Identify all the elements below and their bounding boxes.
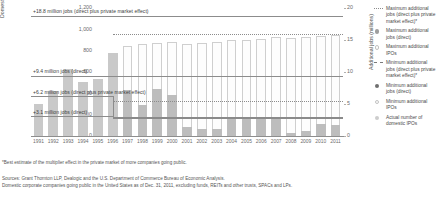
chart-figure: Domestic companies going public in the U… bbox=[0, 0, 437, 197]
y-tick-label-right: 10 bbox=[347, 69, 369, 74]
x-tick-label: 2009 bbox=[298, 139, 314, 144]
bar-actual-ipos bbox=[212, 129, 222, 136]
x-tick-label: 2001 bbox=[179, 139, 195, 144]
legend-marker-icon bbox=[374, 60, 384, 66]
bar-max-additional-ipos bbox=[212, 42, 222, 136]
x-tick-label: 2011 bbox=[328, 139, 344, 144]
bar-actual-ipos bbox=[152, 89, 162, 136]
legend-item[interactable]: Maximum additional jobs (direct plus pri… bbox=[374, 6, 437, 25]
reference-line bbox=[31, 16, 343, 17]
x-tick-label: 1992 bbox=[45, 139, 61, 144]
x-tick-label: 1998 bbox=[134, 139, 150, 144]
legend-item[interactable]: Minimum additional jobs (direct) bbox=[374, 83, 437, 96]
y-tick-label-right: 0 bbox=[347, 133, 369, 138]
legend-item[interactable]: Actual number of domestic IPOs bbox=[374, 115, 437, 128]
y-tick-label-right: 5 bbox=[347, 101, 369, 106]
legend-marker-icon bbox=[374, 83, 384, 89]
bar-actual-ipos bbox=[227, 117, 237, 136]
bar-actual-ipos bbox=[182, 127, 192, 136]
bar-actual-ipos bbox=[316, 124, 326, 136]
reference-line bbox=[31, 96, 113, 97]
x-tick-label: 1999 bbox=[149, 139, 165, 144]
reference-line bbox=[31, 116, 113, 117]
x-tick-label: 2007 bbox=[268, 139, 284, 144]
x-tick-label: 1997 bbox=[120, 139, 136, 144]
bar-actual-ipos bbox=[242, 118, 252, 136]
legend-marker-icon bbox=[374, 6, 384, 12]
reference-line bbox=[113, 117, 343, 118]
bar-actual-ipos bbox=[197, 129, 207, 136]
legend-item-label: Maximum additional IPOs bbox=[386, 44, 437, 57]
y-tick-mark-right bbox=[344, 8, 346, 9]
y-tick-mark-right bbox=[344, 136, 346, 137]
bar-actual-ipos bbox=[271, 117, 281, 136]
x-tick-label: 1991 bbox=[30, 139, 46, 144]
annotation-label: +3.1 million jobs (direct) bbox=[33, 110, 87, 115]
legend-item[interactable]: Maximum additional jobs (direct) bbox=[374, 28, 437, 41]
y-tick-mark-right bbox=[344, 72, 346, 73]
x-tick-label: 2010 bbox=[313, 139, 329, 144]
x-tick-label: 1994 bbox=[75, 139, 91, 144]
bar-max-additional-ipos bbox=[331, 35, 341, 136]
annotation-label: +9.4 million jobs (direct) bbox=[33, 69, 87, 74]
x-tick-label: 1995 bbox=[90, 139, 106, 144]
x-tick-label: 2000 bbox=[164, 139, 180, 144]
legend-marker-icon bbox=[374, 115, 384, 121]
bar-actual-ipos bbox=[63, 69, 73, 136]
x-tick-label: 2008 bbox=[283, 139, 299, 144]
x-tick-label: 2002 bbox=[194, 139, 210, 144]
y-axis-title-left: Domestic companies going public in the U… bbox=[0, 0, 5, 18]
y-tick-label-right: 15 bbox=[347, 37, 369, 42]
y-tick-label-right: 20 bbox=[347, 5, 369, 10]
bar-actual-ipos bbox=[138, 105, 148, 136]
bar-max-additional-ipos bbox=[286, 38, 296, 136]
legend-item-label: Minimum additional jobs (direct) bbox=[386, 83, 437, 96]
legend-item-label: Maximum additional jobs (direct) bbox=[386, 28, 437, 41]
bar-actual-ipos bbox=[331, 125, 341, 136]
chart-legend: Maximum additional jobs (direct plus pri… bbox=[374, 6, 437, 131]
x-tick-label: 2005 bbox=[238, 139, 254, 144]
annotation-label: +6.2 million jobs (direct plus private m… bbox=[33, 90, 146, 95]
x-axis-line bbox=[31, 136, 344, 137]
legend-item-label: Minimum additional jobs (direct plus pri… bbox=[386, 60, 437, 79]
legend-item[interactable]: Maximum additional IPOs bbox=[374, 44, 437, 57]
bar-max-additional-ipos bbox=[316, 36, 326, 136]
bar-actual-ipos bbox=[256, 119, 266, 136]
source-line-2: Domestic corporate companies going publi… bbox=[2, 183, 292, 190]
x-tick-label: 1996 bbox=[105, 139, 121, 144]
y-tick-mark-right bbox=[344, 104, 346, 105]
bar-max-additional-ipos bbox=[301, 37, 311, 136]
legend-marker-icon bbox=[374, 44, 384, 50]
bar-max-additional-ipos bbox=[182, 44, 192, 136]
legend-marker-icon bbox=[374, 28, 384, 34]
footnote-asterisk: *Best estimate of the multiplier effect … bbox=[2, 160, 187, 167]
x-tick-label: 2004 bbox=[224, 139, 240, 144]
annotation-label: +18.8 million jobs (direct plus private … bbox=[33, 9, 149, 14]
y-tick-mark-right bbox=[344, 40, 346, 41]
reference-line bbox=[113, 101, 343, 102]
legend-item[interactable]: Minimum additional IPOs bbox=[374, 99, 437, 112]
legend-marker-icon bbox=[374, 99, 384, 105]
x-tick-label: 1993 bbox=[60, 139, 76, 144]
reference-line bbox=[113, 34, 343, 35]
x-tick-label: 2003 bbox=[209, 139, 225, 144]
reference-connector bbox=[113, 116, 114, 117]
bar-actual-ipos bbox=[93, 79, 103, 136]
bar-actual-ipos bbox=[123, 90, 133, 136]
legend-item-label: Minimum additional IPOs bbox=[386, 99, 437, 112]
bar-max-additional-ipos bbox=[197, 43, 207, 136]
legend-item-label: Actual number of domestic IPOs bbox=[386, 115, 437, 128]
reference-connector bbox=[113, 96, 114, 117]
legend-item[interactable]: Minimum additional jobs (direct plus pri… bbox=[374, 60, 437, 79]
x-tick-label: 2006 bbox=[253, 139, 269, 144]
legend-item-label: Maximum additional jobs (direct plus pri… bbox=[386, 6, 437, 25]
reference-line bbox=[31, 76, 343, 77]
source-line-1: Sources: Grant Thornton LLP, Dealogic an… bbox=[2, 176, 225, 183]
